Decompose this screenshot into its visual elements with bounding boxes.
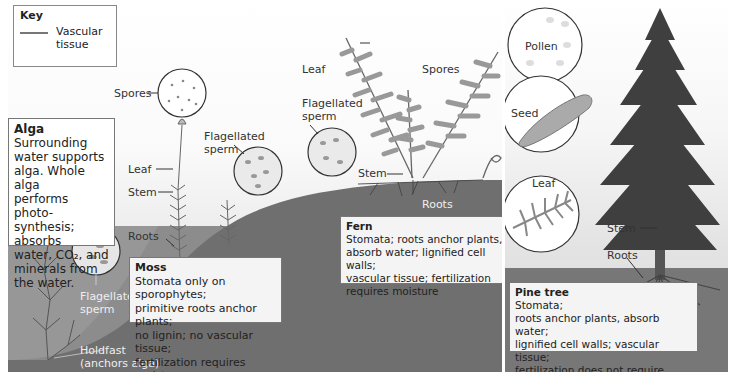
key-title: Key [20, 9, 43, 22]
legend-key: Key Vascular tissue [13, 5, 117, 67]
left-panel-nonvascular-and-fern: Key Vascular tissue Alga Surrounding wat… [8, 0, 502, 372]
moss-line: Stomata only on sporophytes; [135, 275, 276, 302]
fern-sperm-magnified-icon [308, 128, 356, 176]
fern-sperm-label-2: sperm [302, 110, 337, 123]
pine-line: lignified cell walls; vascular tissue; [515, 338, 692, 364]
moss-line: no lignin; no vascular tissue; [135, 329, 276, 356]
pine-title: Pine tree [515, 286, 692, 299]
fern-line: vascular tissue; fertilization [346, 272, 502, 285]
fern-title: Fern [346, 220, 502, 233]
pine-line: roots anchor plants, absorb water; [515, 312, 692, 338]
moss-spores-label: Spores [114, 87, 151, 100]
moss-sperm-label-2: sperm [204, 143, 239, 156]
alga-line: Surrounding [14, 136, 109, 150]
moss-line: primitive roots anchor plants; [135, 302, 276, 329]
alga-line: minerals from [14, 262, 109, 276]
alga-line: the water. [14, 276, 109, 290]
alga-line: water supports [14, 150, 109, 164]
pine-leaf-label: Leaf [532, 177, 555, 190]
alga-sperm-label-2: sperm [80, 303, 115, 316]
key-item-label-2: tissue [56, 38, 102, 51]
key-item-label-1: Vascular [56, 25, 102, 38]
fern-info-box: Fern Stomata; roots anchor plants, absor… [340, 216, 502, 284]
pine-tree-icon [595, 8, 720, 280]
moss-info-box: Moss Stomata only on sporophytes; primit… [129, 257, 282, 323]
pine-stem-label: Stem [607, 222, 636, 235]
alga-line: performs photo- [14, 192, 109, 220]
pine-line: fertilization does not require moisture [515, 364, 692, 372]
alga-info-box: Alga Surrounding water supports alga. Wh… [8, 118, 115, 246]
fern-line: absorb water; lignified cell walls; [346, 246, 502, 272]
fern-sperm-label-1: Flagellated [302, 97, 363, 110]
moss-title: Moss [135, 261, 276, 275]
alga-title: Alga [14, 122, 109, 136]
pine-line: Stomata; [515, 299, 692, 312]
alga-line: synthesis; absorbs [14, 220, 109, 248]
fern-leaf-label: Leaf [302, 63, 325, 76]
alga-line: water, CO₂, and [14, 248, 109, 262]
fern-line: Stomata; roots anchor plants, [346, 233, 502, 246]
pine-roots-label: Roots [607, 249, 638, 262]
fern-line: requires moisture [346, 285, 502, 298]
holdfast-label-1: Holdfast [80, 344, 126, 357]
pine-info-box: Pine tree Stomata; roots anchor plants, … [509, 282, 698, 352]
vascular-tissue-line-icon [20, 32, 48, 34]
fern-stem-label: Stem [358, 167, 387, 180]
seed-label: Seed [511, 107, 539, 120]
fern-roots-label: Roots [422, 198, 453, 211]
moss-sperm-label-1: Flagellated [204, 130, 265, 143]
moss-line: fertilization requires moisture [135, 356, 276, 373]
moss-leaf-label: Leaf [128, 163, 151, 176]
alga-line: alga. Whole alga [14, 164, 109, 192]
moss-stem-label: Stem [128, 186, 157, 199]
moss-roots-label: Roots [128, 230, 159, 243]
right-panel-pine-tree: Pollen Seed Leaf Stem Roots Pine tree St… [505, 0, 728, 372]
pollen-label: Pollen [525, 40, 558, 53]
fern-spores-label: Spores [422, 63, 459, 76]
fern-plant-icon [346, 38, 501, 178]
